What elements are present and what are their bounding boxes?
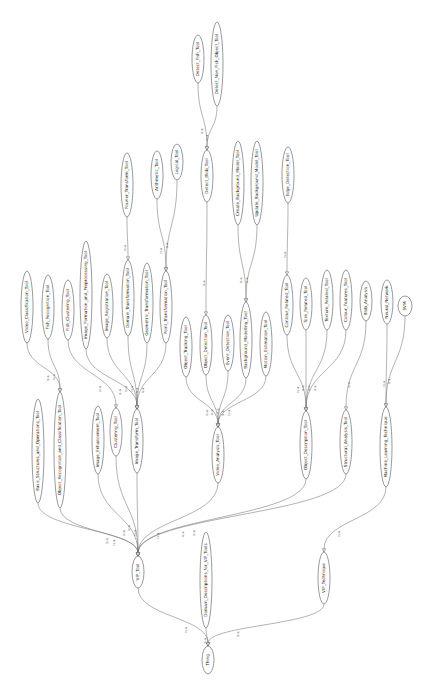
node-blob-analysis[interactable]: Blob_Analysis xyxy=(360,281,372,321)
edge-label: is-a xyxy=(210,410,214,416)
node-label: Update_Background_Model_Tool xyxy=(254,149,259,216)
edge-line xyxy=(157,199,166,268)
node-structural-analysis-tool[interactable]: Structural_Analysis_Tool xyxy=(340,410,352,474)
arrowhead-icon xyxy=(135,406,138,409)
node-label: Image_Transform_Tool xyxy=(134,418,139,464)
ontology-graph: is-ais-ais-ais-ais-ais-ais-ais-ais-ais-a… xyxy=(0,0,432,692)
edge-label: is-a xyxy=(239,278,243,284)
arrowhead-icon xyxy=(164,268,167,271)
edge-label: is-a xyxy=(165,243,169,249)
node-label: Image_Enhancement_Tool xyxy=(95,413,100,467)
node-label: Object_Tracking_Tool xyxy=(183,325,188,368)
node-label: VIP_Tool xyxy=(135,564,140,581)
node-label: Fish_Clustering_Tool xyxy=(65,289,70,331)
node-event-detection-tool[interactable]: Event_Detection_Tool xyxy=(222,315,234,371)
node-fish-recognition-tool[interactable]: Fish_Recognition_Tool xyxy=(42,275,54,339)
edge-label: is-a xyxy=(313,385,317,391)
node-video-analysis-tool[interactable]: Video_Analysis_Tool xyxy=(212,427,224,483)
edge-line xyxy=(386,316,405,404)
edge-label: is-a xyxy=(202,280,206,286)
edge-label: is-a xyxy=(127,525,131,531)
arrowhead-icon xyxy=(304,408,307,411)
node-fish-clustering-tool[interactable]: Fish_Clustering_Tool xyxy=(62,280,74,340)
node-object-description-tool[interactable]: Object_Description_Tool xyxy=(300,411,312,479)
node-geometric-transformation-tool[interactable]: Geometric_Transformation_Tool xyxy=(141,263,153,343)
edge-label: is-a xyxy=(216,408,220,414)
node-label: Image_Registration_Tool xyxy=(104,281,109,332)
edge-contour-related-tool-to-object-description-tool: is-a xyxy=(287,335,308,411)
node-object-recognition-and-classification-tool[interactable]: Object_Recognition_and_Classification_To… xyxy=(54,392,66,508)
node-domain-transformation-tool[interactable]: Domain_Transformation_Tool xyxy=(122,260,134,336)
node-logical-tool[interactable]: Logical_Tool xyxy=(171,144,183,180)
node-label: Edge_Detection_Tool xyxy=(285,153,290,196)
edge-vip-tool-to-thing: is-a xyxy=(138,588,210,646)
node-colour-features-tool[interactable]: Colour_Features_Tool xyxy=(340,270,352,330)
edge-label: is-a xyxy=(98,386,102,392)
edge-line xyxy=(138,588,208,643)
node-label: Texture_Related_Tool xyxy=(324,278,329,323)
node-image-enhancement-tool[interactable]: Image_Enhancement_Tool xyxy=(92,406,104,474)
node-contour-related-tool[interactable]: Contour_Related_Tool xyxy=(281,275,293,335)
node-vip-technique[interactable]: VIP_Technique xyxy=(318,552,330,604)
edge-fourier-transform-tool-to-domain-transformation-tool: is-a xyxy=(123,217,129,260)
arrowhead-icon xyxy=(205,147,208,150)
edge-update-background-model-tool-to-background-modelling-tool: is-a xyxy=(244,225,257,302)
edge-label: is-a xyxy=(200,128,204,134)
node-image-transform-tool[interactable]: Image_Transform_Tool xyxy=(131,409,143,473)
edge-line xyxy=(137,343,147,406)
edge-image-formation-and-preprocessing-tool-to-image-transform-tool: is-a xyxy=(86,349,139,409)
node-thing[interactable]: Thing xyxy=(202,646,214,674)
node-edge-detection-tool[interactable]: Edge_Detection_Tool xyxy=(282,147,294,203)
edge-colour-features-tool-to-object-description-tool: is-a xyxy=(304,330,346,411)
edge-line xyxy=(138,474,346,553)
edge-line xyxy=(98,474,138,553)
node-label: Machine_Learning_Technique xyxy=(383,416,388,477)
node-motion-estimation-tool[interactable]: Motion_Estimation_Tool xyxy=(260,312,272,376)
edge-label: is-a xyxy=(181,532,185,538)
node-detect-fish-tool[interactable]: Detect_Fish_Tool xyxy=(192,35,204,83)
node-label: Create_Background_Model_Tool xyxy=(235,150,240,216)
edge-detect-non-fish-object-tool-to-detect-blob-tool: is-a xyxy=(205,106,217,150)
node-create-background-model-tool[interactable]: Create_Background_Model_Tool xyxy=(232,141,244,225)
node-fourier-transform-tool[interactable]: Fourier_Transform_Tool xyxy=(121,153,133,217)
node-background-modelling-tool[interactable]: Background_Modelling_Tool xyxy=(240,302,252,378)
node-video-classification-tool[interactable]: Video_Classification_Tool xyxy=(21,271,33,343)
node-clustering-tool[interactable]: Clustering_Tool xyxy=(110,408,122,456)
node-domain-descriptions-for-vip-tools[interactable]: Domain_Descriptions_for_VIP_Tools xyxy=(200,532,212,628)
node-vip-tool[interactable]: VIP_Tool xyxy=(132,556,144,588)
edge-label: is-a xyxy=(122,530,126,536)
edge-line xyxy=(306,330,346,408)
edge-line xyxy=(287,335,306,408)
edge-object-description-tool-to-vip-tool: is-a xyxy=(136,479,306,556)
node-size-related-tool[interactable]: Size_Related_Tool xyxy=(300,278,312,330)
node-point-transformation-tool[interactable]: Point_Transformation_Tool xyxy=(160,271,172,343)
node-image-formation-and-preprocessing-tool[interactable]: Image_Formation_and_Preprocessing_Tool xyxy=(80,241,92,349)
node-image-registration-tool[interactable]: Image_Registration_Tool xyxy=(101,274,113,338)
edge-label: is-a xyxy=(124,386,128,392)
node-basic-structures-and-operations-tool[interactable]: Basic_Structures_and_Operations_Tool xyxy=(32,399,44,503)
edge-fish-recognition-tool-to-object-recognition-and-classification-tool: is-a xyxy=(48,339,62,392)
node-detect-blob-tool[interactable]: Detect_Blob_Tool xyxy=(201,150,213,202)
node-object-tracking-tool[interactable]: Object_Tracking_Tool xyxy=(180,317,192,377)
node-label: Video_Classification_Tool xyxy=(24,281,29,333)
node-label: Geometric_Transformation_Tool xyxy=(144,270,149,336)
node-detect-non-fish-object-tool[interactable]: Detect_Non_Fish_Object_Tool xyxy=(211,22,223,106)
node-machine-learning-technique[interactable]: Machine_Learning_Technique xyxy=(380,407,392,487)
edge-label: is-a xyxy=(135,388,139,394)
node-texture-related-tool[interactable]: Texture_Related_Tool xyxy=(321,270,333,330)
arrowhead-icon xyxy=(216,424,219,427)
edge-label: is-a xyxy=(302,385,306,391)
node-neural-network[interactable]: Neural_Network xyxy=(381,280,393,324)
node-label: Colour_Features_Tool xyxy=(343,278,348,322)
node-label: Event_Detection_Tool xyxy=(225,321,230,366)
edge-machine-learning-technique-to-vip-technique: is-a xyxy=(322,487,386,552)
node-label: Logical_Tool xyxy=(174,150,179,175)
edge-label: is-a xyxy=(296,387,300,393)
node-svm[interactable]: SVM xyxy=(398,296,412,316)
node-object-detection-tool[interactable]: Object_Detection_Tool xyxy=(200,315,212,375)
node-arithmetic-tool[interactable]: Arithmetic_Tool xyxy=(151,151,163,199)
edge-label: is-a xyxy=(382,381,386,387)
edge-label: is-a xyxy=(141,388,145,394)
arrowhead-icon xyxy=(58,389,61,392)
node-update-background-model-tool[interactable]: Update_Background_Model_Tool xyxy=(251,141,263,225)
